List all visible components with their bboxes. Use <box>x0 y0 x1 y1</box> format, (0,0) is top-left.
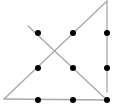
nine-dots-diagram <box>0 0 116 105</box>
dot-5 <box>70 65 76 71</box>
dot-3 <box>104 30 110 36</box>
line-segment-3 <box>4 1 107 99</box>
dot-6 <box>104 65 110 71</box>
dot-8 <box>70 97 76 103</box>
line-segment-1 <box>28 26 107 100</box>
dot-2 <box>70 30 76 36</box>
dot-9 <box>104 97 110 103</box>
dot-4 <box>35 65 41 71</box>
connecting-lines <box>4 1 107 100</box>
diagram-svg <box>0 0 116 105</box>
dot-7 <box>35 97 41 103</box>
line-segment-2 <box>4 99 107 100</box>
dot-1 <box>35 30 41 36</box>
